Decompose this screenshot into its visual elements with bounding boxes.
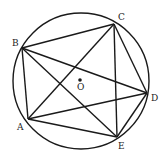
segment-de [117, 93, 147, 137]
chord-segments [22, 24, 147, 137]
label-e: E [118, 141, 125, 151]
label-b: B [12, 38, 19, 48]
segment-ab [22, 48, 28, 119]
segment-bc [22, 24, 114, 48]
segment-ea [28, 119, 117, 137]
label-o: O [77, 82, 84, 92]
segment-ad [28, 93, 147, 119]
label-c: C [118, 12, 125, 22]
segment-ac [28, 24, 114, 119]
geometry-figure: O ABCDE [0, 0, 167, 154]
label-a: A [16, 122, 24, 132]
circle-diagram: O ABCDE [0, 0, 167, 154]
segment-be [22, 48, 117, 137]
label-d: D [151, 93, 158, 103]
segment-ce [114, 24, 117, 137]
